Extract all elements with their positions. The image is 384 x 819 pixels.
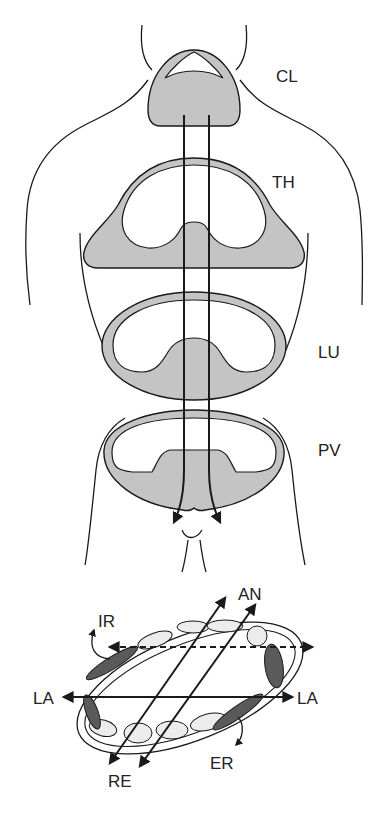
label-thoracic: TH [272,173,295,192]
label-lumbar: LU [318,343,340,362]
label-lateral-left: LA [33,689,54,708]
label-pelvic: PV [318,441,341,460]
label-cervical: CL [276,67,298,86]
cervical-section [148,50,240,126]
pelvic-section [104,410,284,511]
label-internal-rotation: IR [98,612,115,631]
anatomy-diagram: CL TH LU PV [0,0,384,819]
label-external-rotation: ER [210,754,234,773]
label-anterior: AN [238,585,262,604]
label-lateral-right: LA [297,689,318,708]
lumbar-section [102,292,286,400]
label-retro: RE [108,772,132,791]
